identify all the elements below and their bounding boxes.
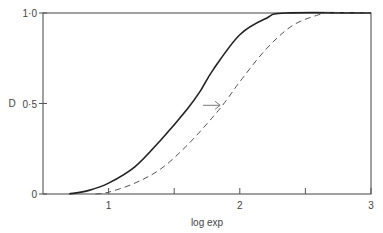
- series-solid-line: [69, 13, 371, 194]
- plot-border: [43, 13, 371, 194]
- chart: 123 00·51·0 log exp D: [0, 0, 383, 233]
- y-tick-label: 1·0: [23, 8, 38, 19]
- y-axis-label: D: [8, 98, 15, 109]
- annotations: [203, 101, 220, 109]
- series-dashed-line: [95, 13, 371, 194]
- x-tick-label: 1: [106, 200, 112, 211]
- x-tick-label: 3: [368, 200, 374, 211]
- plot-frame: [43, 13, 371, 194]
- y-tick-label: 0: [31, 189, 37, 200]
- x-axis-label: log exp: [191, 217, 224, 228]
- x-axis: 123: [106, 188, 374, 211]
- arrow-annotation: [203, 101, 220, 109]
- x-tick-label: 2: [237, 200, 243, 211]
- series-group: [69, 13, 371, 194]
- y-tick-label: 0·5: [23, 99, 38, 110]
